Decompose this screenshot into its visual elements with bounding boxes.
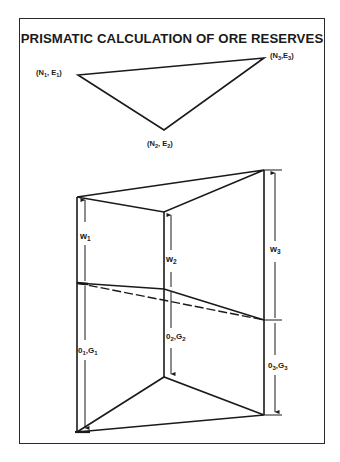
- dimension-lines: [85, 170, 282, 428]
- plan-view-triangle: [78, 58, 264, 130]
- label-o2-g2: 02,G2: [166, 332, 186, 342]
- prism-diagram: (N1, E1) (N3,E3) (N2, E2): [0, 0, 340, 462]
- label-w3: w3: [269, 244, 281, 255]
- label-w1: w1: [79, 231, 91, 242]
- label-o3-g3: 03,G3: [268, 361, 288, 371]
- label-o1-g1: 01,G1: [78, 346, 98, 356]
- point-label-n3-e3: (N3,E3): [270, 51, 294, 61]
- prism-body: [75, 170, 264, 432]
- label-w2: w2: [165, 254, 177, 265]
- point-label-n2-e2: (N2, E2): [147, 139, 173, 149]
- point-label-n1-e1: (N1, E1): [36, 68, 62, 78]
